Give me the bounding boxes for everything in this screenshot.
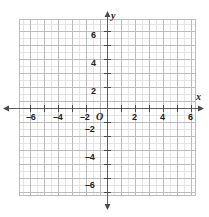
x-tick-label-6: 6	[188, 113, 193, 122]
x-axis-arrow-right	[198, 106, 204, 112]
y-tick-label-2: 2	[91, 87, 96, 96]
y-axis	[105, 11, 111, 210]
y-tick-label-neg6: –6	[85, 181, 95, 190]
y-tick-label-neg4: –4	[85, 153, 95, 162]
coordinate-plane-figure: –6 –4 –2 2 4 6 6 4 2 –2 –4 –6 O x y	[0, 0, 209, 217]
x-axis-arrow-left	[3, 106, 9, 112]
x-tick-label-neg6: –6	[26, 113, 36, 122]
y-axis-arrow-down	[105, 204, 111, 210]
x-axis-label: x	[196, 92, 201, 102]
coordinate-grid-svg	[0, 0, 209, 217]
y-axis-arrow-up	[105, 11, 111, 17]
x-axis	[3, 106, 204, 112]
y-tick-label-neg2: –2	[85, 125, 95, 134]
y-tick-label-6: 6	[91, 31, 96, 40]
x-tick-label-neg4: –4	[53, 113, 63, 122]
y-tick-label-4: 4	[91, 59, 96, 68]
origin-label: O	[96, 112, 103, 122]
x-tick-label-neg2: –2	[80, 113, 90, 122]
y-axis-label: y	[111, 11, 115, 21]
x-tick-label-2: 2	[132, 113, 137, 122]
x-tick-label-4: 4	[160, 113, 165, 122]
